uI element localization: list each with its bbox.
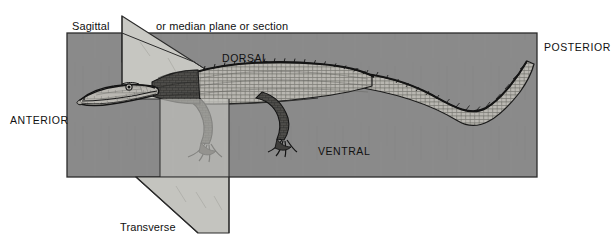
label-anterior: ANTERIOR xyxy=(10,115,69,127)
label-transverse-plane: Transverse plane or cross section xyxy=(120,196,186,243)
label-posterior: POSTERIOR xyxy=(544,42,611,54)
label-median-plane: or median plane or section xyxy=(156,20,288,32)
label-sagittal: Sagittal xyxy=(72,20,110,32)
label-dorsal: DORSAL xyxy=(222,53,268,65)
label-ventral: VENTRAL xyxy=(318,146,370,158)
anatomical-planes-figure xyxy=(0,0,615,243)
label-transverse-line-1: Transverse xyxy=(120,221,186,233)
